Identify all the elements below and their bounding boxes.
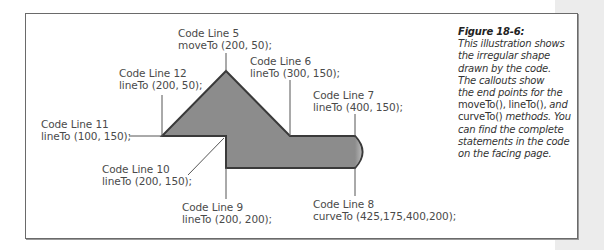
leader-line10 [188, 138, 224, 175]
figure-title: Figure 18-6: [458, 26, 554, 38]
caption-line: statements in the code [458, 136, 554, 148]
callout-code: lineTo (400, 150); [313, 102, 403, 114]
caption-line: The callouts show [458, 75, 554, 87]
caption-methods-you: methods. You [503, 111, 571, 122]
callout-code: moveTo (200, 50); [178, 40, 272, 52]
callout-code-line-11: Code Line 11 lineTo (100, 150); [41, 119, 131, 142]
callout-label: Code Line 11 [41, 119, 131, 131]
callout-label: Code Line 8 [313, 199, 456, 211]
callout-label: Code Line 10 [102, 164, 192, 176]
callout-code: curveTo (425,175,400,200); [313, 211, 456, 223]
callout-code: lineTo (100, 150); [41, 131, 131, 143]
caption-and: and [546, 99, 567, 110]
figure-caption: Figure 18-6: This illustration shows the… [458, 26, 554, 160]
callout-code: lineTo (200, 50); [119, 80, 202, 92]
callout-code-line-5: Code Line 5 moveTo (200, 50); [178, 28, 272, 51]
callout-code: lineTo (300, 150); [250, 68, 340, 80]
caption-line: the end points for the [458, 87, 554, 99]
callout-label: Code Line 6 [250, 56, 340, 68]
callout-code: lineTo (200, 200); [182, 214, 272, 226]
callout-label: Code Line 5 [178, 28, 272, 40]
callout-code-line-6: Code Line 6 lineTo (300, 150); [250, 56, 340, 79]
caption-curveto-upright: curveTo() [458, 111, 503, 122]
caption-line: on the facing page. [458, 148, 554, 160]
callout-label: Code Line 7 [313, 90, 403, 102]
callout-code-line-12: Code Line 12 lineTo (200, 50); [119, 68, 202, 91]
caption-line: This illustration shows [458, 38, 554, 50]
callout-label: Code Line 12 [119, 68, 202, 80]
callout-code-line-8: Code Line 8 curveTo (425,175,400,200); [313, 199, 456, 222]
callout-label: Code Line 9 [182, 202, 272, 214]
callout-code-line-10: Code Line 10 lineTo (200, 150); [102, 164, 192, 187]
caption-line: drawn by the code. [458, 63, 554, 75]
callout-code-line-7: Code Line 7 lineTo (400, 150); [313, 90, 403, 113]
caption-line-methods: moveTo(), lineTo(), and [458, 99, 554, 111]
callout-code-line-9: Code Line 9 lineTo (200, 200); [182, 202, 272, 225]
caption-methods-upright: moveTo(), lineTo(), [458, 99, 546, 110]
caption-line: can find the complete [458, 124, 554, 136]
caption-line-curveto: curveTo() methods. You [458, 111, 554, 123]
callout-code: lineTo (200, 150); [102, 176, 192, 188]
caption-line: the irregular shape [458, 50, 554, 62]
